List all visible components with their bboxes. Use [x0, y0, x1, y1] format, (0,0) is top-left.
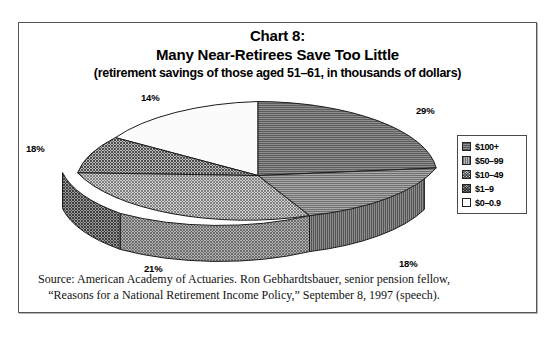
legend-item-1-9[interactable]: $1–9: [462, 182, 523, 195]
pie-slice-side-50-99: [310, 173, 425, 251]
horizontal-hatch-dark-swatch-icon: [462, 142, 471, 151]
pie-slice-top-1-9: [78, 138, 258, 176]
page-title: Chart 8:: [19, 27, 536, 45]
source-note: Source: American Academy of Actuaries. R…: [29, 271, 459, 303]
chart-caption: (retirement savings of those aged 51–61,…: [19, 64, 536, 82]
legend-label: $100+: [475, 142, 499, 152]
pie-label-0-0.9: 14%: [141, 92, 159, 103]
chart-subtitle: Many Near-Retirees Save Too Little: [19, 45, 536, 64]
pie-label-1-9: 18%: [26, 143, 44, 154]
legend-label: $50–99: [475, 156, 503, 166]
pie-label-50-99: 18%: [399, 258, 417, 269]
crosshatch-light-swatch-icon: [462, 170, 471, 179]
chart-title-block: Chart 8: Many Near-Retirees Save Too Lit…: [19, 27, 536, 82]
vertical-hatch-swatch-icon: [462, 156, 471, 165]
chart-frame: Chart 8: Many Near-Retirees Save Too Lit…: [18, 22, 537, 313]
chart-legend: $100+ $50–99 $10–49 $1–9 $0–0.9: [457, 135, 527, 214]
legend-label: $1–9: [475, 184, 494, 194]
source-line-2: “Reasons for a National Retirement Incom…: [29, 287, 459, 303]
legend-label: $0–0.9: [475, 198, 501, 208]
legend-item-0-0.9[interactable]: $0–0.9: [462, 196, 523, 209]
legend-item-100plus[interactable]: $100+: [462, 140, 523, 153]
pie-slice-side-10-49: [120, 213, 309, 261]
legend-item-50-99[interactable]: $50–99: [462, 154, 523, 167]
pie-slice-top-50-99: [258, 168, 436, 216]
crosshatch-dark-swatch-icon: [462, 184, 471, 193]
pie-slice-top-100plus: [258, 102, 436, 176]
pie-slice-top-10-49: [78, 173, 310, 220]
pie-slice-side-1-9: [63, 173, 121, 250]
pie-label-100plus: 29%: [416, 105, 434, 116]
legend-item-10-49[interactable]: $10–49: [462, 168, 523, 181]
source-line-1: Source: American Academy of Actuaries. R…: [29, 271, 459, 287]
solid-white-swatch-icon: [462, 198, 471, 207]
pie-slice-top-0-0.9: [115, 102, 258, 176]
legend-label: $10–49: [475, 170, 503, 180]
